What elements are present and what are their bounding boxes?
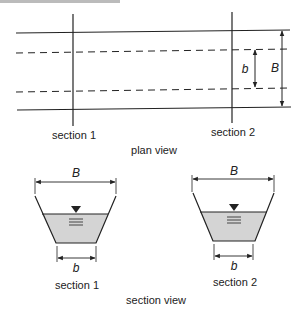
section-2-B-label: B bbox=[230, 164, 238, 178]
section-1-b-label: b bbox=[73, 261, 80, 275]
plan-b-label: b bbox=[242, 62, 249, 76]
plan-view-title: plan view bbox=[131, 144, 177, 156]
section-1-label: section 1 bbox=[55, 279, 99, 291]
section-2-cross-section bbox=[192, 175, 274, 260]
section-2-label: section 2 bbox=[213, 276, 257, 288]
section-view-title: section view bbox=[126, 294, 186, 306]
section-2-b-label: b bbox=[231, 259, 238, 273]
channel-top-edge bbox=[16, 30, 290, 33]
plan-B-label: B bbox=[271, 61, 279, 75]
channel-bottom-edge bbox=[17, 107, 291, 110]
plan-section-2-label: section 2 bbox=[211, 126, 255, 138]
water-level-marker-icon bbox=[71, 206, 81, 213]
plan-view bbox=[16, 12, 291, 126]
plan-section-1-label: section 1 bbox=[52, 129, 96, 141]
channel-transition-diagram: b B section 1 section 2 plan view B b se… bbox=[0, 0, 300, 319]
section-1-B-label: B bbox=[72, 166, 80, 180]
bottom-width-line-upper bbox=[16, 49, 290, 53]
section-1-cross-section bbox=[35, 178, 116, 262]
water-level-marker-icon bbox=[229, 204, 239, 211]
header-fragment bbox=[0, 0, 120, 3]
bottom-width-line-lower bbox=[16, 88, 290, 92]
